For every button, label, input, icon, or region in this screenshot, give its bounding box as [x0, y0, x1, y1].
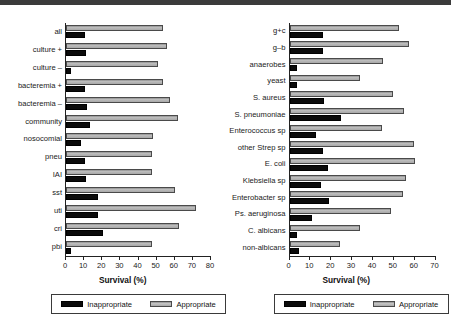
bar-appropriate	[290, 25, 400, 31]
x-axis-tick-label: 50	[151, 261, 159, 270]
y-axis-label: Klebsiella sp	[243, 177, 286, 185]
bar-inappropriate	[66, 86, 85, 92]
x-axis-tick	[372, 256, 373, 260]
bar-appropriate	[66, 79, 163, 85]
bar-group: anaerobes	[290, 56, 435, 73]
bar-group: S. pneumoniae	[290, 106, 435, 123]
y-axis-label: other Strep sp	[238, 144, 286, 152]
x-axis-tick	[210, 256, 211, 260]
bar-appropriate	[290, 208, 392, 214]
bar-inappropriate	[66, 230, 103, 236]
y-axis-label: bacteremia +	[18, 82, 62, 90]
bar-appropriate	[66, 133, 153, 139]
bar-inappropriate	[66, 248, 71, 254]
bar-appropriate	[66, 187, 175, 193]
x-axis-tick	[351, 256, 352, 260]
x-axis-tick	[138, 256, 139, 260]
legend-label-appropriate: Appropriate	[176, 300, 215, 309]
bar-group: Ps. aeruginosa	[290, 206, 435, 223]
x-axis-tick-label: 70	[430, 261, 438, 270]
bar-inappropriate	[290, 48, 323, 54]
x-axis-tick-label: 30	[347, 261, 355, 270]
bar-appropriate	[66, 223, 179, 229]
y-axis-label: culture –	[33, 64, 62, 72]
legend-label-appropriate: Appropriate	[399, 300, 438, 309]
chart-panel-right: g+cg–banaerobesyeastS. aureusS. pneumoni…	[226, 5, 451, 326]
y-axis-label: pbi	[52, 243, 62, 251]
bar-appropriate	[290, 191, 404, 197]
bar-appropriate	[66, 97, 170, 103]
bar-inappropriate	[66, 158, 85, 164]
bar-inappropriate	[290, 198, 329, 204]
bar-group: IAI	[66, 166, 210, 184]
bar-appropriate	[66, 61, 158, 67]
y-axis-label: anaerobes	[250, 61, 286, 69]
bar-inappropriate	[290, 115, 342, 121]
x-axis-tick	[309, 256, 310, 260]
bar-inappropriate	[66, 50, 86, 56]
legend-swatch-appropriate	[373, 301, 395, 307]
bar-group: E. coli	[290, 156, 435, 173]
bar-appropriate	[290, 158, 415, 164]
bar-appropriate	[290, 58, 383, 64]
bar-inappropriate	[290, 132, 317, 138]
y-axis-label: C. albicans	[248, 227, 286, 235]
bar-group: cri	[66, 220, 210, 238]
bar-inappropriate	[66, 122, 90, 128]
bar-inappropriate	[290, 32, 323, 38]
bar-inappropriate	[290, 65, 297, 71]
x-axis-tick-label: 40	[368, 261, 376, 270]
x-axis-tick-label: 20	[97, 261, 105, 270]
bar-appropriate	[290, 241, 341, 247]
x-axis-tick-label: 20	[326, 261, 334, 270]
bar-inappropriate	[290, 182, 321, 188]
legend-left: Inappropriate Appropriate	[51, 294, 226, 314]
x-axis-tick-label: 80	[206, 261, 214, 270]
y-axis-label: bacteremia –	[18, 100, 62, 108]
bar-inappropriate	[66, 212, 98, 218]
x-axis-tick	[83, 256, 84, 260]
y-axis-label: cri	[54, 225, 62, 233]
bar-appropriate	[66, 25, 163, 31]
bar-group: pbi	[66, 238, 210, 256]
y-axis-label: non-albicans	[242, 244, 285, 252]
legend-swatch-inappropriate	[61, 301, 83, 307]
x-axis-tick	[289, 256, 290, 260]
bar-appropriate	[290, 108, 405, 114]
x-axis-tick-label: 70	[188, 261, 196, 270]
plot-area-right: g+cg–banaerobesyeastS. aureusS. pneumoni…	[289, 23, 435, 256]
x-axis-tick-label: 40	[133, 261, 141, 270]
bar-inappropriate	[290, 215, 313, 221]
y-axis-label: all	[54, 28, 62, 36]
bar-group: g–b	[290, 40, 435, 57]
plot-area-left: allculture +culture –bacteremia +bactere…	[65, 23, 210, 256]
y-axis-label: uti	[54, 207, 62, 215]
bar-group: Enterococcus sp	[290, 123, 435, 140]
bar-inappropriate	[290, 232, 297, 238]
bar-appropriate	[290, 75, 360, 81]
x-axis-tick	[119, 256, 120, 260]
bar-appropriate	[66, 151, 152, 157]
x-axis-tick	[174, 256, 175, 260]
legend-item-inappropriate: Inappropriate	[61, 300, 132, 309]
y-axis-label: g–b	[273, 44, 286, 52]
y-axis-label: community	[25, 118, 62, 126]
x-axis-tick	[192, 256, 193, 260]
bar-inappropriate	[66, 104, 87, 110]
chart-panel-left: allculture +culture –bacteremia +bactere…	[0, 5, 226, 326]
x-axis-title-right: Survival (%)	[234, 275, 451, 285]
bar-appropriate	[290, 175, 406, 181]
x-axis-tick	[65, 256, 66, 260]
x-axis-tick	[414, 256, 415, 260]
y-axis-label: sst	[52, 189, 62, 197]
bar-inappropriate	[290, 248, 299, 254]
bar-appropriate	[66, 169, 152, 175]
x-axis-tick	[330, 256, 331, 260]
legend-item-appropriate: Appropriate	[150, 300, 215, 309]
bar-group: yeast	[290, 73, 435, 90]
x-axis-tick-label: 10	[305, 261, 313, 270]
bar-group: other Strep sp	[290, 140, 435, 157]
bar-appropriate	[290, 41, 409, 47]
legend-label-inappropriate: Inappropriate	[310, 300, 355, 309]
bar-group: pneu	[66, 148, 210, 166]
